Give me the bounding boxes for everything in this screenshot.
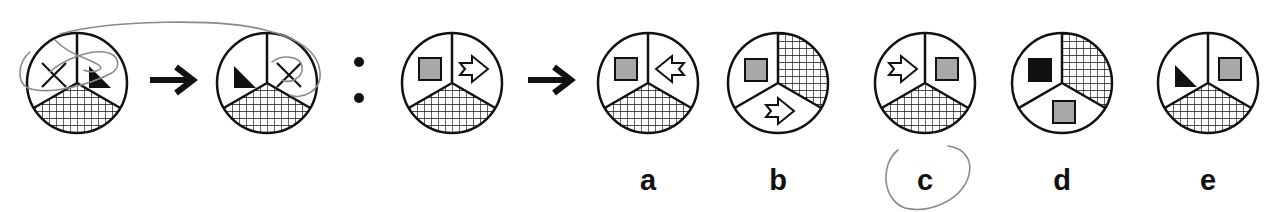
- black-square-icon: [1029, 59, 1051, 81]
- option-a-figure[interactable]: [598, 33, 698, 133]
- gray-square-icon: [615, 58, 637, 80]
- black-triangle-icon: [1175, 65, 1197, 87]
- figure-1: [27, 33, 127, 133]
- black-triangle-icon: [234, 66, 256, 88]
- option-b-figure[interactable]: [728, 33, 828, 133]
- option-c-figure[interactable]: [875, 33, 975, 133]
- option-d-label[interactable]: d: [1053, 164, 1071, 197]
- gray-square-icon: [936, 58, 958, 80]
- gray-square-icon: [419, 58, 441, 80]
- option-e-label[interactable]: e: [1200, 164, 1216, 197]
- arrow-right-outline-icon: [460, 56, 488, 82]
- gray-square-icon: [1053, 101, 1075, 123]
- figure-2: [217, 33, 317, 133]
- option-e-figure[interactable]: [1158, 33, 1258, 133]
- option-d-figure[interactable]: [1012, 33, 1112, 133]
- arrow-left-outline-icon: [656, 56, 684, 82]
- pencil-annotation: [20, 22, 970, 209]
- arrow-right-outline-icon: [766, 98, 794, 124]
- option-c-label[interactable]: c: [917, 164, 933, 197]
- x-mark-icon: [42, 63, 66, 87]
- analogy-separator: [354, 57, 364, 103]
- arrow-right-outline-icon: [889, 56, 917, 82]
- figure-3: [402, 33, 502, 133]
- transform-arrow-icon: [150, 67, 193, 93]
- gray-square-icon: [1219, 58, 1241, 80]
- option-b-label[interactable]: b: [769, 164, 787, 197]
- gray-square-icon: [745, 59, 767, 81]
- option-a-label[interactable]: a: [640, 164, 656, 197]
- answer-arrow-icon: [528, 67, 571, 93]
- x-mark-icon: [277, 63, 301, 87]
- analogy-puzzle: [0, 0, 1277, 212]
